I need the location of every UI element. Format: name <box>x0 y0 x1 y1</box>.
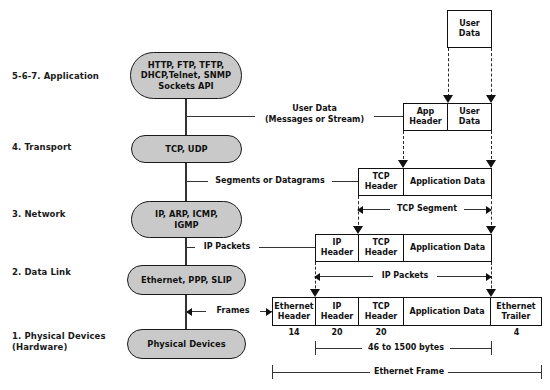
pdu-cell-transport-app-data: Application Data <box>404 169 491 195</box>
flow-label-user-data: User Data (Messages or Stream) <box>255 104 374 125</box>
layer-box-network[interactable]: IP, ARP, ICMP, IGMP <box>131 201 242 238</box>
bracket-arrow-frames-right <box>266 308 272 316</box>
pdu-row-top-user-data: User Data <box>447 10 492 48</box>
arrowhead-app-right <box>486 160 496 168</box>
layer-label-transport: 4. Transport <box>12 142 71 153</box>
bracket-tick-ethernet-frame-right <box>541 365 542 379</box>
pdu-cell-network-tcp-header: TCP Header <box>359 235 404 261</box>
pdu-cell-network-app-data: Application Data <box>404 235 491 261</box>
layer-label-network: 3. Network <box>12 209 66 220</box>
bracket-arrow-tcp-segment-right <box>486 206 492 214</box>
bracket-tick-payload-right <box>491 341 492 355</box>
layer-label-physical: 1. Physical Devices (Hardware) <box>12 331 106 353</box>
layer-box-datalink[interactable]: Ethernet, PPP, SLIP <box>127 265 246 295</box>
bracket-arrow-ip-packets-left <box>314 273 320 281</box>
layer-box-transport[interactable]: TCP, UDP <box>131 135 242 163</box>
arrowhead-userdata-right <box>486 95 496 103</box>
pdu-row-transport: TCP Header Application Data <box>358 168 492 196</box>
bracket-label-ip-packets: IP Packets <box>373 271 437 282</box>
pdu-cell-datalink-app-data: Application Data <box>404 298 491 325</box>
pdu-cell-ethernet-header: Ethernet Header <box>273 298 316 325</box>
byte-size-ethernet-header: 14 <box>273 328 315 337</box>
pdu-row-datalink: Ethernet Header IP Header TCP Header App… <box>272 297 542 326</box>
pdu-cell-ethernet-trailer: Ethernet Trailer <box>491 298 541 325</box>
layer-box-application[interactable]: HTTP, FTP, TFTP, DHCP,Telnet, SNMP Socke… <box>130 52 242 99</box>
byte-size-tcp-header: 20 <box>359 328 403 337</box>
pdu-row-network: IP Header TCP Header Application Data <box>315 234 492 262</box>
pdu-cell-datalink-ip-header: IP Header <box>316 298 359 325</box>
dashline-userdata-right <box>491 48 492 97</box>
layer-label-datalink: 2. Data Link <box>12 267 71 278</box>
pdu-cell-ip-header: IP Header <box>316 235 359 261</box>
dashline-userdata-left <box>448 48 449 97</box>
bracket-tick-payload-left <box>315 341 316 355</box>
layer-box-physical[interactable]: Physical Devices <box>127 329 246 359</box>
bracket-tick-ethernet-frame-left <box>272 365 273 379</box>
arrowhead-userdata-left <box>443 95 453 103</box>
layer-label-application: 5-6-7. Application <box>12 71 99 82</box>
bracket-label-ethernet-frame: Ethernet Frame <box>370 367 448 378</box>
bracket-label-tcp-segment: TCP Segment <box>390 204 464 215</box>
bracket-arrow-ip-packets-right <box>486 273 492 281</box>
arrowhead-tcp-left <box>353 226 363 234</box>
byte-size-ip-header: 20 <box>316 328 358 337</box>
arrowhead-tcp-right <box>486 226 496 234</box>
pdu-cell-user-data: User Data <box>448 11 491 47</box>
pdu-cell-app-header: App Header <box>404 104 448 130</box>
pdu-row-application: App Header User Data <box>403 103 492 131</box>
arrowhead-ip-right <box>486 289 496 297</box>
arrowhead-app-left <box>398 160 408 168</box>
arrowhead-ip-left <box>310 289 320 297</box>
bracket-label-payload-range: 46 to 1500 bytes <box>362 343 450 354</box>
spine-app-to-transport <box>185 99 187 136</box>
diagram-canvas: 5-6-7. Application 4. Transport 3. Netwo… <box>0 0 550 390</box>
flow-label-segments: Segments or Datagrams <box>208 176 332 187</box>
pdu-cell-app-user-data: User Data <box>448 104 491 130</box>
bracket-arrow-frames-left <box>186 308 192 316</box>
flow-label-frames: Frames <box>206 306 260 317</box>
pdu-cell-datalink-tcp-header: TCP Header <box>359 298 404 325</box>
flow-label-ip-packets: IP Packets <box>195 242 259 253</box>
byte-size-ethernet-trailer: 4 <box>492 328 541 337</box>
bracket-arrow-tcp-segment-left <box>357 206 363 214</box>
pdu-cell-tcp-header: TCP Header <box>359 169 404 195</box>
